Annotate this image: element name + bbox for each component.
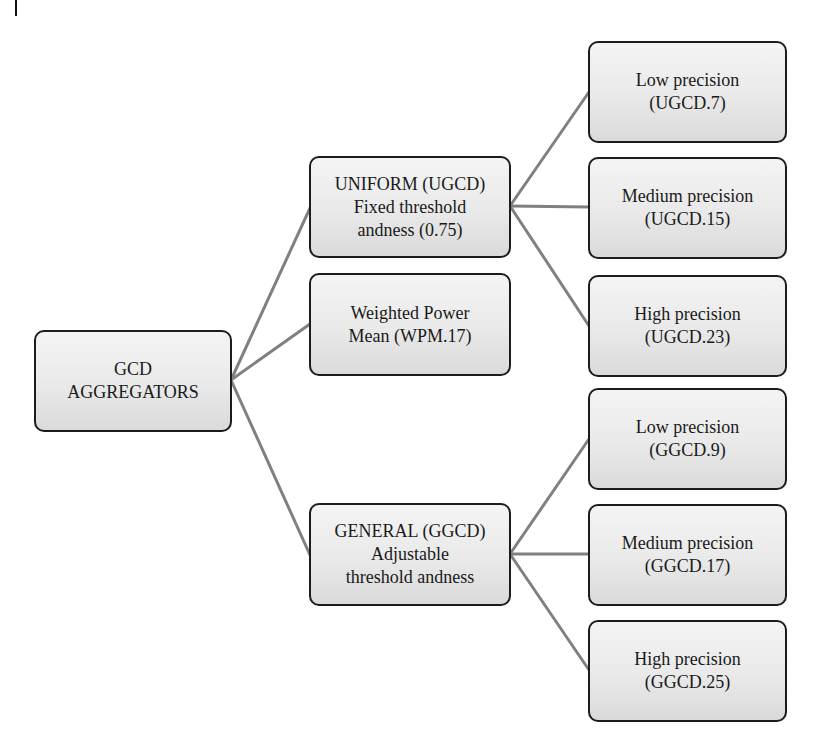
node-ugcd-low-precision: Low precision (UGCD.7) [588,41,787,143]
node-label: GENERAL (GGCD) Adjustable threshold andn… [335,520,486,589]
node-label: GCD AGGREGATORS [67,358,199,404]
node-ggcd-medium-precision: Medium precision (GGCD.17) [588,504,787,606]
edge-uniform-medium [510,206,589,207]
edge-uniform-high [510,206,589,326]
node-label: Weighted Power Mean (WPM.17) [349,302,472,348]
node-uniform-ugcd: UNIFORM (UGCD) Fixed threshold andness (… [309,156,511,258]
edge-general-low [510,439,589,554]
node-ugcd-high-precision: High precision (UGCD.23) [588,275,787,377]
node-weighted-power-mean: Weighted Power Mean (WPM.17) [309,273,511,376]
edge-general-high [510,554,589,670]
edge-root-uniform [231,208,310,380]
node-label: High precision (GGCD.25) [634,648,740,694]
edge-root-general [231,380,310,555]
node-label: UNIFORM (UGCD) Fixed threshold andness (… [335,173,486,242]
node-gcd-aggregators: GCD AGGREGATORS [34,330,232,432]
node-general-ggcd: GENERAL (GGCD) Adjustable threshold andn… [309,503,511,606]
node-label: High precision (UGCD.23) [634,303,740,349]
node-ugcd-medium-precision: Medium precision (UGCD.15) [588,157,787,259]
node-label: Medium precision (UGCD.15) [622,185,753,231]
node-ggcd-low-precision: Low precision (GGCD.9) [588,388,787,490]
node-label: Low precision (UGCD.7) [636,69,739,115]
node-ggcd-high-precision: High precision (GGCD.25) [588,620,787,722]
edge-uniform-low [510,92,589,206]
node-label: Low precision (GGCD.9) [636,416,739,462]
node-label: Medium precision (GGCD.17) [622,532,753,578]
